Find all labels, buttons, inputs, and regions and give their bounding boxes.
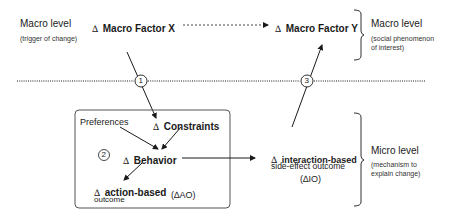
action-based-outcome-line2: outcome: [94, 196, 125, 204]
macro-level-right-sub-1: (social phenomenon: [371, 35, 434, 44]
macro-factor-x-label: Macro Factor X: [103, 23, 175, 34]
action-based-abbr: (∆AO): [171, 190, 196, 200]
constraints-label: Constraints: [164, 121, 220, 132]
macro-level-left-label: Macro level: [20, 19, 71, 29]
step-1-label: 1: [139, 77, 143, 85]
delta-symbol: ∆: [275, 24, 281, 34]
behavior: ∆ Behavior: [123, 151, 177, 167]
step-2-label: 2: [102, 151, 106, 159]
delta-symbol: ∆: [92, 24, 98, 34]
delta-symbol: ∆: [123, 156, 129, 166]
interaction-outcome-line2: side-effect outcome: [271, 162, 345, 171]
macro-level-right-label: Macro level: [371, 19, 422, 29]
micro-level-sub-1: (mechanism to: [371, 161, 417, 170]
macro-factor-y-label: Macro Factor Y: [286, 23, 358, 34]
macro-factor-x: ∆ Macro Factor X: [92, 19, 175, 35]
diagram-lines: [0, 0, 457, 217]
preferences-label: Preferences: [80, 118, 129, 127]
interaction-outcome-abbr: (∆IO): [300, 175, 321, 184]
macro-bracket: [354, 10, 364, 60]
macro-level-right-sub-2: of interest): [371, 44, 404, 53]
delta-symbol: ∆: [153, 122, 159, 132]
macro-factor-y: ∆ Macro Factor Y: [275, 19, 358, 35]
macro-level-left-sub: (trigger of change): [20, 35, 77, 44]
constraints: ∆ Constraints: [153, 117, 219, 133]
behavior-label: Behavior: [134, 155, 177, 166]
step-3-label: 3: [305, 77, 309, 85]
micro-level-sub-2: explain change): [371, 170, 420, 179]
micro-level-label: Micro level: [371, 146, 419, 156]
